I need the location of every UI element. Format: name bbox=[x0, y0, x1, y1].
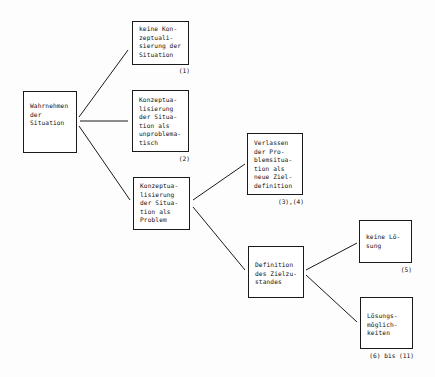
node-text: keine Kon- bbox=[139, 25, 184, 34]
ref-label-5: (5) bbox=[390, 266, 412, 273]
node-text: keine Lö- bbox=[366, 233, 407, 242]
node-text: Situation bbox=[139, 51, 184, 60]
node-text: der Pro- bbox=[254, 148, 298, 157]
node-definition: Definition des Zielzu- standes bbox=[248, 246, 304, 298]
node-text: Konzeptua- bbox=[140, 182, 185, 191]
node-text: definition bbox=[254, 182, 298, 191]
edge-wahrnehmen-problem bbox=[79, 126, 130, 200]
diagram-canvas: Wahrnehmen der Situation keine Kon- zept… bbox=[0, 0, 435, 377]
node-text: möglich- bbox=[367, 321, 408, 330]
node-verlassen: Verlassen der Pro- blemsitua- tion als n… bbox=[247, 133, 303, 195]
node-text: tisch bbox=[139, 139, 184, 148]
node-text: Situation bbox=[30, 119, 72, 128]
node-text: der Situa- bbox=[139, 113, 184, 122]
node-text: der Situa- bbox=[140, 199, 185, 208]
node-keine-loesung: keine Lö- sung bbox=[359, 220, 412, 263]
node-text: sung bbox=[366, 242, 407, 251]
node-text: Definition bbox=[255, 261, 299, 270]
node-text: des Zielzu- bbox=[255, 270, 299, 279]
node-keine-konzept: keine Kon- zeptuali- sierung der Situati… bbox=[132, 21, 189, 65]
edge-definition-keine-loesung bbox=[306, 243, 357, 270]
node-text: der bbox=[30, 111, 72, 120]
ref-label-2: (2) bbox=[160, 155, 190, 162]
node-text: lisierung bbox=[139, 105, 184, 114]
node-text: zeptuali- bbox=[139, 34, 184, 43]
node-unproblematisch: Konzeptua- lisierung der Situa- tion als… bbox=[132, 90, 189, 152]
node-text: standes bbox=[255, 278, 299, 287]
node-loesungsmoeglichkeiten: Lösungs- möglich- keiten bbox=[360, 297, 413, 349]
edge-problem-definition bbox=[193, 207, 245, 270]
node-text: tion als bbox=[254, 165, 298, 174]
ref-label-1: (1) bbox=[160, 67, 190, 74]
ref-label-3-4: (3),(4) bbox=[268, 198, 304, 205]
node-text: keiten bbox=[367, 329, 408, 338]
edge-wahrnehmen-keine-konzept bbox=[79, 50, 128, 117]
node-text: unproblema- bbox=[139, 130, 184, 139]
node-text: lisierung bbox=[140, 191, 185, 200]
node-problem: Konzeptua- lisierung der Situa- tion als… bbox=[133, 177, 190, 230]
node-text: Konzeptua- bbox=[139, 96, 184, 105]
node-text: blemsitua- bbox=[254, 156, 298, 165]
node-text: neue Ziel- bbox=[254, 173, 298, 182]
edge-problem-verlassen bbox=[193, 164, 245, 200]
ref-label-6-11: (6) bis (11) bbox=[362, 352, 414, 359]
node-text: Lösungs- bbox=[367, 312, 408, 321]
node-text: sierung der bbox=[139, 42, 184, 51]
node-text: Verlassen bbox=[254, 139, 298, 148]
edge-definition-loesungsmoeglichkeiten bbox=[306, 275, 357, 322]
node-text: Wahrnehmen bbox=[30, 102, 72, 111]
node-text: tion als bbox=[139, 122, 184, 131]
node-text: Problem bbox=[140, 216, 185, 225]
node-wahrnehmen: Wahrnehmen der Situation bbox=[23, 91, 77, 153]
node-text: tion als bbox=[140, 208, 185, 217]
